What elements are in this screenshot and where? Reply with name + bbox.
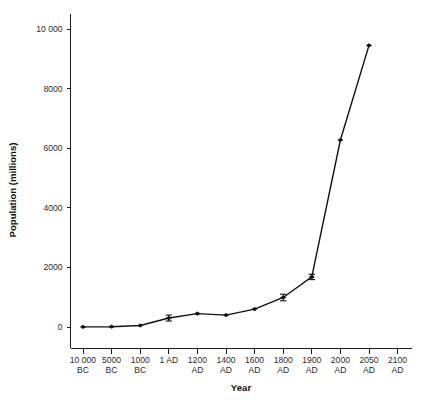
x-tick-label-line1: 2050 <box>359 355 378 365</box>
x-tick-label-line1: 1 AD <box>159 355 178 365</box>
chart-background <box>0 0 425 402</box>
y-tick-label: 2000 <box>43 262 62 272</box>
x-tick-label-line1: 1800 <box>274 355 293 365</box>
x-tick-label-line1: 10 000 <box>70 355 97 365</box>
x-tick-label-line2: AD <box>334 365 346 375</box>
x-tick-label-line1: 1000 <box>131 355 150 365</box>
x-tick-label-line2: BC <box>106 365 118 375</box>
x-tick-label-line1: 5000 <box>102 355 121 365</box>
x-tick-label-line2: AD <box>220 365 232 375</box>
x-tick-label-line2: BC <box>134 365 146 375</box>
x-tick-label-line2: AD <box>277 365 289 375</box>
x-tick-label-line2: AD <box>306 365 318 375</box>
x-tick-label-line1: 1900 <box>302 355 321 365</box>
y-tick-label: 4000 <box>43 203 62 213</box>
x-tick-label-line1: 2000 <box>331 355 350 365</box>
x-tick-label-line1: 1200 <box>188 355 207 365</box>
x-tick-label-line2: AD <box>392 365 404 375</box>
population-growth-chart: 0200040006000800010 000 10 000BC5000BC10… <box>0 0 425 402</box>
x-tick-label-line2: BC <box>77 365 89 375</box>
chart-canvas: 0200040006000800010 000 10 000BC5000BC10… <box>0 0 425 402</box>
y-tick-label: 0 <box>58 322 63 332</box>
y-tick-label: 6000 <box>43 143 62 153</box>
x-tick-label-line2: AD <box>191 365 203 375</box>
x-tick-label-line2: AD <box>249 365 261 375</box>
x-tick-label-line1: 2100 <box>388 355 407 365</box>
y-tick-label: 10 000 <box>36 24 63 34</box>
cut-off-caption-strip <box>0 395 425 402</box>
x-axis-title: Year <box>231 382 252 393</box>
x-tick-label-line2: AD <box>363 365 375 375</box>
y-tick-label: 8000 <box>43 84 62 94</box>
x-tick-label-line1: 1400 <box>216 355 235 365</box>
y-axis-title: Population (millions) <box>7 143 18 238</box>
x-tick-label-line1: 1600 <box>245 355 264 365</box>
